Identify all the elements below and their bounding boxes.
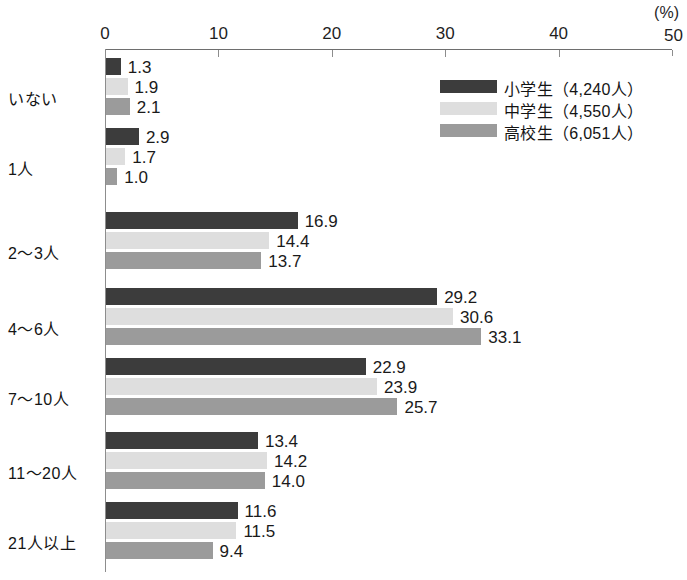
bar-2-1 (106, 232, 269, 249)
x-axis-line (105, 49, 672, 50)
bar-6-2 (106, 542, 213, 559)
bar-1-0 (106, 128, 139, 145)
bar-1-1 (106, 148, 125, 165)
bar-value-5-0: 13.4 (265, 433, 298, 450)
bar-1-2 (106, 168, 117, 185)
bar-value-1-1: 1.7 (132, 149, 156, 166)
x-tick-10 (218, 50, 219, 57)
legend-swatch-2 (440, 124, 497, 137)
x-tick-label-50: 50 (664, 26, 683, 46)
bar-value-5-2: 14.0 (272, 473, 305, 490)
x-tick-30 (445, 50, 446, 57)
bar-value-2-2: 13.7 (268, 253, 301, 270)
category-label-1: 1人 (8, 156, 34, 180)
bar-0-0 (106, 58, 121, 75)
x-tick-40 (559, 50, 560, 57)
bar-value-0-1: 1.9 (135, 79, 159, 96)
bar-value-0-0: 1.3 (128, 59, 152, 76)
bar-value-6-1: 11.5 (243, 523, 275, 540)
bar-6-0 (106, 502, 238, 519)
x-tick-label-20: 20 (322, 24, 341, 44)
bar-3-1 (106, 308, 453, 325)
bar-3-0 (106, 288, 437, 305)
x-tick-label-0: 0 (100, 24, 109, 44)
bar-5-1 (106, 452, 267, 469)
bar-2-2 (106, 252, 261, 269)
bar-chart: (%) 01020304050 いない1人2～3人4～6人7～10人11～20人… (0, 0, 687, 580)
legend-swatch-1 (440, 102, 497, 115)
bar-value-3-0: 29.2 (444, 289, 477, 306)
category-label-0: いない (8, 86, 58, 110)
x-tick-label-40: 40 (549, 24, 568, 44)
legend-label-0: 小学生（4,240人） (504, 76, 643, 100)
bar-value-5-1: 14.2 (274, 453, 307, 470)
legend-label-2: 高校生（6,051人） (504, 120, 643, 144)
legend-label-1: 中学生（4,550人） (504, 98, 643, 122)
bar-0-2 (106, 98, 130, 115)
bar-value-1-2: 1.0 (124, 169, 148, 186)
bar-6-1 (106, 522, 236, 539)
x-tick-label-30: 30 (436, 24, 455, 44)
bar-value-2-0: 16.9 (305, 213, 338, 230)
bar-0-1 (106, 78, 128, 95)
bar-value-3-1: 30.6 (460, 309, 493, 326)
category-label-6: 21人以上 (8, 530, 76, 554)
bar-5-2 (106, 472, 265, 489)
x-tick-label-10: 10 (209, 24, 228, 44)
bar-value-6-2: 9.4 (220, 543, 244, 560)
bar-value-4-0: 22.9 (373, 359, 406, 376)
bar-4-0 (106, 358, 366, 375)
bar-value-1-0: 2.9 (146, 129, 170, 146)
legend-swatch-0 (440, 80, 497, 93)
bar-3-2 (106, 328, 481, 345)
bar-2-0 (106, 212, 298, 229)
bar-value-0-2: 2.1 (137, 99, 161, 116)
category-label-3: 4～6人 (8, 316, 60, 340)
clipped-title-remnant (28, 0, 388, 5)
category-label-4: 7～10人 (8, 386, 69, 410)
axis-unit-label: (%) (654, 4, 679, 22)
x-tick-20 (332, 50, 333, 57)
category-label-5: 11～20人 (8, 460, 77, 484)
bar-value-2-1: 14.4 (276, 233, 309, 250)
bar-value-3-2: 33.1 (488, 329, 521, 346)
bar-5-0 (106, 432, 258, 449)
x-tick-50 (672, 50, 673, 56)
category-label-2: 2～3人 (8, 240, 60, 264)
bar-4-1 (106, 378, 377, 395)
bar-4-2 (106, 398, 397, 415)
bar-value-4-2: 25.7 (404, 399, 437, 416)
bar-value-4-1: 23.9 (384, 379, 417, 396)
bar-value-6-0: 11.6 (245, 503, 277, 520)
